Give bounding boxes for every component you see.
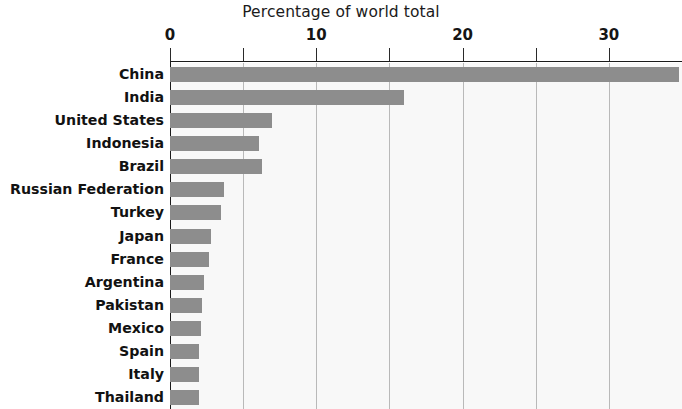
category-label: Spain — [0, 344, 164, 359]
chart-title: Percentage of world total — [0, 3, 682, 21]
bar[interactable] — [170, 205, 221, 220]
bar[interactable] — [170, 367, 199, 382]
category-label: Turkey — [0, 205, 164, 220]
x-tick-label-0: 0 — [165, 26, 175, 44]
category-label: Argentina — [0, 275, 164, 290]
category-label: Mexico — [0, 321, 164, 336]
bar[interactable] — [170, 67, 679, 82]
category-label: Russian Federation — [0, 182, 164, 197]
x-axis-tick-labels: 0102030 — [0, 26, 682, 46]
x-tick-mark-20 — [463, 48, 464, 61]
x-tick-label-30: 30 — [598, 26, 619, 44]
bar[interactable] — [170, 275, 204, 290]
category-label: United States — [0, 113, 164, 128]
category-label: France — [0, 252, 164, 267]
bar[interactable] — [170, 321, 201, 336]
x-tick-mark-5 — [243, 48, 244, 61]
bar[interactable] — [170, 252, 209, 267]
bar[interactable] — [170, 90, 404, 105]
category-label: Italy — [0, 367, 164, 382]
x-axis-tick-marks — [0, 48, 682, 62]
bar[interactable] — [170, 298, 202, 313]
category-label: China — [0, 67, 164, 82]
x-tick-mark-25 — [536, 48, 537, 61]
bar-chart: Percentage of world total 0102030 ChinaI… — [0, 0, 682, 409]
category-label: Brazil — [0, 159, 164, 174]
x-tick-label-10: 10 — [306, 26, 327, 44]
x-tick-mark-10 — [316, 48, 317, 61]
bar[interactable] — [170, 159, 262, 174]
category-label: India — [0, 90, 164, 105]
bar[interactable] — [170, 344, 199, 359]
bars-layer — [170, 63, 682, 409]
bar[interactable] — [170, 229, 211, 244]
bar[interactable] — [170, 113, 272, 128]
bar[interactable] — [170, 136, 259, 151]
x-tick-mark-15 — [389, 48, 390, 61]
y-axis-category-labels: ChinaIndiaUnited StatesIndonesiaBrazilRu… — [0, 63, 164, 409]
category-label: Pakistan — [0, 298, 164, 313]
category-label: Japan — [0, 229, 164, 244]
x-tick-mark-30 — [609, 48, 610, 61]
bar[interactable] — [170, 390, 199, 405]
bar[interactable] — [170, 182, 224, 197]
category-label: Thailand — [0, 390, 164, 405]
category-label: Indonesia — [0, 136, 164, 151]
x-tick-mark-0 — [170, 48, 171, 61]
x-tick-label-20: 20 — [452, 26, 473, 44]
